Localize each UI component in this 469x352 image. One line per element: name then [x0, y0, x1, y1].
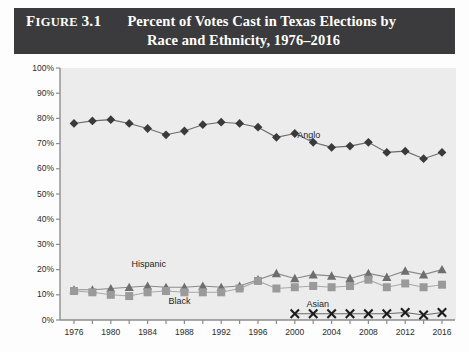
series-label-asian: Asian [306, 299, 329, 309]
data-point-square [236, 285, 244, 293]
x-axis-tick-label: 1988 [164, 327, 204, 337]
series-label-hispanic: Hispanic [132, 259, 167, 269]
x-axis-tick-label: 1992 [201, 327, 241, 337]
y-axis-tick-label: 70% [20, 138, 54, 148]
data-point-square [291, 283, 299, 291]
plot-svg [14, 58, 455, 344]
x-axis-tick-label: 1996 [238, 327, 278, 337]
series-label-black: Black [168, 296, 190, 306]
figure-title-line-1: Percent of Votes Cast in Texas Elections… [127, 13, 396, 30]
data-point-square [144, 288, 152, 296]
data-point-square [328, 283, 336, 291]
data-point-square [438, 281, 446, 289]
y-axis-tick-label: 60% [20, 163, 54, 173]
y-axis-tick-label: 90% [20, 88, 54, 98]
y-axis-tick-label: 10% [20, 289, 54, 299]
data-point-square [217, 288, 225, 296]
data-point-square [420, 283, 428, 291]
figure-number: 3.1 [81, 12, 101, 29]
x-axis-tick-label: 2004 [312, 327, 352, 337]
x-axis-tick-label: 1984 [128, 327, 168, 337]
data-point-square [401, 279, 409, 287]
data-point-square [309, 282, 317, 290]
figure-word-rest: IGURE [35, 15, 77, 29]
y-axis-tick-label: 20% [20, 264, 54, 274]
x-axis-tick-label: 1980 [91, 327, 131, 337]
x-axis-tick-label: 2012 [385, 327, 425, 337]
chart-area: 0%10%20%30%40%50%60%70%80%90%100%1976198… [14, 58, 455, 344]
data-point-square [70, 287, 78, 295]
y-axis-tick-label: 40% [20, 214, 54, 224]
data-point-square [254, 277, 262, 285]
data-point-square [364, 276, 372, 284]
figure-title-banner: FIGURE 3.1 Percent of Votes Cast in Texa… [14, 8, 455, 54]
y-axis-tick-label: 0% [20, 315, 54, 325]
data-point-square [383, 283, 391, 291]
title-first-row: FIGURE 3.1 Percent of Votes Cast in Texa… [26, 12, 445, 30]
y-axis-tick-label: 80% [20, 113, 54, 123]
figure-container: FIGURE 3.1 Percent of Votes Cast in Texa… [0, 0, 469, 352]
series-label-anglo: Anglo [297, 130, 320, 140]
y-axis-tick-label: 50% [20, 189, 54, 199]
x-axis-tick-label: 2008 [348, 327, 388, 337]
data-point-square [272, 285, 280, 293]
x-axis-tick-label: 2000 [275, 327, 315, 337]
data-point-square [180, 288, 188, 296]
data-point-square [346, 282, 354, 290]
data-point-square [199, 288, 207, 296]
figure-title-line-2: Race and Ethnicity, 1976–2016 [147, 32, 340, 48]
data-point-square [162, 287, 170, 295]
y-axis-tick-label: 30% [20, 239, 54, 249]
data-point-square [125, 292, 133, 300]
x-axis-tick-label: 2016 [422, 327, 462, 337]
x-axis-tick-label: 1976 [54, 327, 94, 337]
data-point-square [88, 288, 96, 296]
title-second-row: Race and Ethnicity, 1976–2016 [26, 31, 445, 49]
data-point-square [107, 291, 115, 299]
figure-word: FIGURE 3.1 [26, 12, 101, 30]
y-axis-tick-label: 100% [20, 63, 54, 73]
